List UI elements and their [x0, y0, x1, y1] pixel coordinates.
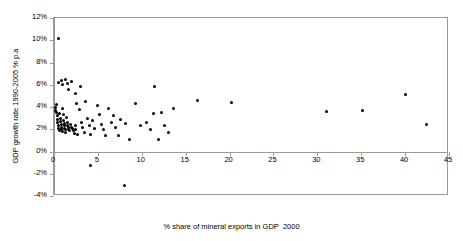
y-tick-label: 6% — [36, 80, 47, 88]
data-point — [61, 107, 64, 110]
y-tick — [50, 85, 54, 86]
y-tick-label: 10% — [32, 36, 47, 44]
x-axis-title: % share of mineral exports in GDP 2000 — [0, 223, 463, 231]
data-point — [79, 85, 82, 88]
y-tick-label: 2% — [36, 125, 47, 133]
data-point — [76, 133, 79, 136]
x-tick-label: 0 — [51, 156, 55, 164]
x-tick-label: 30 — [312, 156, 320, 164]
data-point — [102, 128, 105, 131]
data-point — [325, 110, 328, 113]
data-point — [230, 101, 233, 104]
data-point — [153, 85, 156, 88]
y-tick — [50, 63, 54, 64]
data-point — [172, 107, 175, 110]
data-point — [61, 83, 64, 86]
y-axis-title: GDP growth rate 1990-2005 % p.a — [9, 17, 23, 195]
x-tick-label: 25 — [268, 156, 276, 164]
data-point — [64, 131, 67, 134]
data-point — [83, 131, 86, 134]
data-point — [361, 109, 364, 112]
y-tick — [50, 196, 54, 197]
data-point — [66, 82, 69, 85]
data-point — [404, 93, 407, 96]
data-point — [96, 104, 99, 107]
data-point — [167, 131, 170, 134]
data-point — [89, 164, 92, 167]
data-point — [84, 100, 87, 103]
y-tick — [50, 174, 54, 175]
x-tick-label: 45 — [444, 156, 452, 164]
data-point — [80, 121, 83, 124]
data-point — [74, 124, 77, 127]
data-point — [110, 121, 113, 124]
data-point — [55, 103, 58, 106]
data-point — [67, 88, 70, 91]
data-point — [74, 92, 77, 95]
data-point — [58, 112, 61, 115]
data-point — [64, 78, 67, 81]
data-point — [107, 107, 110, 110]
x-tick-label: 40 — [400, 156, 408, 164]
zero-baseline — [54, 152, 447, 153]
plot-area — [53, 17, 448, 195]
data-point — [196, 99, 199, 102]
data-point — [119, 118, 122, 121]
data-point — [134, 102, 137, 105]
x-tick-label: 15 — [180, 156, 188, 164]
data-point — [114, 126, 117, 129]
data-point — [163, 124, 166, 127]
y-tick-label: -4% — [34, 191, 47, 199]
y-tick-label: -2% — [34, 169, 47, 177]
data-point — [117, 134, 120, 137]
data-point — [157, 138, 160, 141]
data-point — [86, 117, 89, 120]
data-point — [145, 121, 148, 124]
data-point — [70, 80, 73, 83]
data-point — [139, 124, 142, 127]
data-point — [112, 114, 115, 117]
data-point — [160, 111, 163, 114]
x-tick-label: 35 — [356, 156, 364, 164]
scatter-chart: -4%-2%0%2%4%6%8%10%12% 05101520253035404… — [0, 0, 463, 241]
data-point — [149, 128, 152, 131]
data-point — [425, 123, 428, 126]
y-tick-label: 0% — [36, 147, 47, 155]
data-point — [91, 119, 94, 122]
data-point — [152, 112, 155, 115]
y-tick — [50, 18, 54, 19]
data-point — [89, 133, 92, 136]
y-tick-label: 8% — [36, 58, 47, 66]
data-point — [75, 102, 78, 105]
data-point — [57, 37, 60, 40]
data-point — [123, 184, 126, 187]
data-point — [128, 138, 131, 141]
data-point — [98, 113, 101, 116]
y-tick-label: 12% — [32, 13, 47, 21]
y-tick — [50, 40, 54, 41]
data-point — [104, 134, 107, 137]
data-point — [81, 126, 84, 129]
x-tick-label: 20 — [224, 156, 232, 164]
data-point — [60, 79, 63, 82]
data-point — [78, 108, 81, 111]
data-point — [65, 116, 68, 119]
data-point — [88, 124, 91, 127]
data-point — [74, 128, 77, 131]
y-tick — [50, 129, 54, 130]
data-point — [93, 127, 96, 130]
y-tick-label: 4% — [36, 102, 47, 110]
data-point — [124, 122, 127, 125]
x-tick-label: 10 — [137, 156, 145, 164]
x-tick-label: 5 — [95, 156, 99, 164]
data-point — [100, 123, 103, 126]
